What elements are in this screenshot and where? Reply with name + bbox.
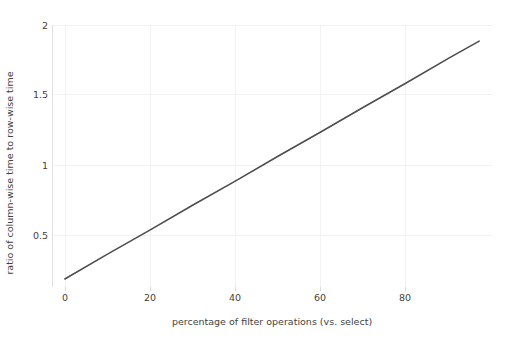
y-tick-label: 2 <box>42 20 48 31</box>
x-tick-mark <box>405 287 406 291</box>
y-tick-label: 0.5 <box>33 230 48 241</box>
x-tick-label: 40 <box>229 292 241 303</box>
x-axis-title: percentage of filter operations (vs. sel… <box>52 316 492 327</box>
x-tick-mark <box>320 287 321 291</box>
x-tick-label: 80 <box>399 292 411 303</box>
x-tick-mark <box>150 287 151 291</box>
x-tick-mark <box>65 287 66 291</box>
x-tick-label: 60 <box>314 292 326 303</box>
y-axis-title-wrapper: ratio of column-wise time to row-wise ti… <box>0 0 18 346</box>
plot-area <box>52 25 492 287</box>
y-axis-spine <box>52 25 53 287</box>
data-line-svg <box>52 25 492 287</box>
x-tick-label: 0 <box>62 292 68 303</box>
data-series-line <box>65 41 479 279</box>
x-tick-mark <box>235 287 236 291</box>
x-tick-label: 20 <box>144 292 156 303</box>
y-axis-title: ratio of column-wise time to row-wise ti… <box>4 71 15 274</box>
x-axis-spine <box>52 287 492 288</box>
chart-figure: 0 20 40 60 80 2 1.5 1 0.5 percentage of … <box>0 0 505 346</box>
y-tick-label: 1 <box>42 160 48 171</box>
y-tick-label: 1.5 <box>33 89 48 100</box>
